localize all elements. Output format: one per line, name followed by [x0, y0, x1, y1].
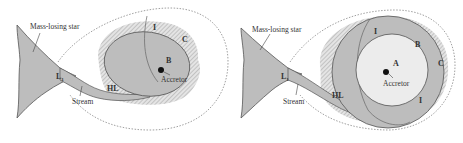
accretor-dot: [383, 69, 389, 75]
label-stream: Stream: [72, 97, 93, 106]
left-panel: Mass-losing star L1 Stream HL I B C Accr…: [17, 8, 228, 130]
label-region-i: I: [153, 23, 156, 32]
label-region-c: C: [438, 59, 444, 68]
label-region-i-top: I: [374, 27, 377, 36]
label-region-i-bottom: I: [419, 96, 422, 105]
label-hl: HL: [332, 91, 344, 100]
right-panel: Mass-losing star L1 Stream HL I B C A Ac…: [241, 10, 455, 130]
label-mass-losing-star: Mass-losing star: [30, 22, 80, 31]
label-region-c: C: [182, 35, 188, 44]
label-accretor: Accretor: [383, 79, 410, 88]
label-region-b: B: [166, 56, 172, 65]
label-hl: HL: [107, 84, 119, 93]
accretor-dot: [158, 67, 164, 73]
label-region-b: B: [415, 40, 421, 49]
star-pointer: [260, 34, 270, 50]
accretion-diagram: Mass-losing star L1 Stream HL I B C Accr…: [0, 0, 463, 143]
label-stream: Stream: [283, 97, 304, 106]
label-accretor: Accretor: [161, 75, 188, 84]
label-mass-losing-star: Mass-losing star: [252, 25, 302, 34]
stream-pointer: [296, 84, 298, 95]
label-region-a: A: [393, 59, 399, 68]
